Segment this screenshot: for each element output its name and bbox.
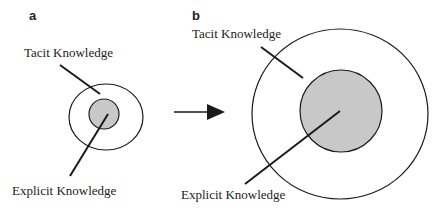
panel-a-label: a (29, 8, 37, 23)
panel-a-explicit-label: Explicit Knowledge (12, 183, 117, 198)
panel-a: a Tacit Knowledge Explicit Knowledge (12, 8, 143, 198)
panel-b-tacit-label: Tacit Knowledge (192, 26, 281, 41)
panel-a-tacit-label: Tacit Knowledge (24, 45, 113, 60)
panel-b: b Tacit Knowledge Explicit Knowledge (181, 8, 428, 202)
panel-b-explicit-label: Explicit Knowledge (181, 187, 286, 202)
panel-a-tacit-pointer (60, 65, 100, 94)
panel-a-explicit-circle (89, 99, 119, 129)
arrow-right-icon (174, 104, 225, 120)
panel-b-explicit-circle (300, 70, 382, 152)
knowledge-diagram: a Tacit Knowledge Explicit Knowledge b T… (0, 0, 440, 215)
panel-b-label: b (192, 8, 200, 23)
